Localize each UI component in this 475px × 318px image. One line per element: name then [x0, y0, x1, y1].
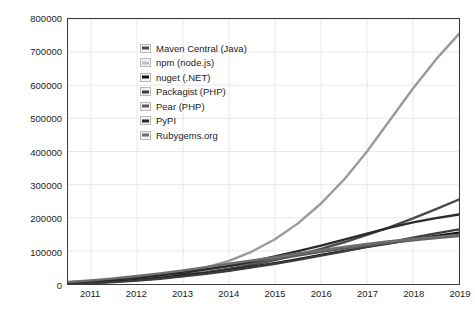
legend-color-swatch-icon: [140, 73, 151, 82]
legend-item[interactable]: Packagist (PHP): [140, 86, 247, 98]
y-axis-tick-label: 300000: [0, 179, 62, 190]
legend-color-swatch-icon: [140, 87, 151, 96]
legend-item-label: Pear (PHP): [156, 101, 205, 112]
legend-item-label: PyPI: [156, 115, 176, 126]
y-axis-tick-label: 100000: [0, 246, 62, 257]
legend-item[interactable]: Rubygems.org: [140, 129, 247, 141]
y-axis-tick-label: 500000: [0, 113, 62, 124]
legend: Maven Central (Java)npm (node.js)nuget (…: [140, 40, 247, 141]
legend-color-swatch-icon: [140, 102, 151, 111]
legend-item[interactable]: PyPI: [140, 115, 247, 127]
y-axis-tick-label: 0: [0, 280, 62, 291]
line-chart: 0100000200000300000400000500000600000700…: [0, 0, 475, 318]
legend-color-swatch-icon: [140, 116, 151, 125]
legend-color-swatch-icon: [140, 44, 151, 53]
legend-item-label: npm (node.js): [156, 57, 214, 68]
legend-item-label: Rubygems.org: [156, 130, 218, 141]
series-line: [68, 34, 459, 283]
legend-item[interactable]: Maven Central (Java): [140, 42, 247, 54]
legend-color-swatch-icon: [140, 58, 151, 67]
legend-item-label: nuget (.NET): [156, 72, 210, 83]
legend-item-label: Packagist (PHP): [156, 86, 226, 97]
y-axis-tick-label: 800000: [0, 13, 62, 24]
y-axis-tick-label: 700000: [0, 46, 62, 57]
legend-item[interactable]: nuget (.NET): [140, 71, 247, 83]
y-axis-tick-label: 200000: [0, 213, 62, 224]
legend-item-label: Maven Central (Java): [156, 43, 247, 54]
y-axis-tick-label: 600000: [0, 79, 62, 90]
series-line: [68, 214, 459, 282]
series-lines: [68, 19, 459, 284]
legend-color-swatch-icon: [140, 131, 151, 140]
legend-item[interactable]: Pear (PHP): [140, 100, 247, 112]
y-axis-tick-label: 400000: [0, 146, 62, 157]
plot-area: Maven Central (Java)npm (node.js)nuget (…: [67, 18, 460, 285]
series-line: [68, 229, 459, 283]
legend-item[interactable]: npm (node.js): [140, 57, 247, 69]
x-axis-tick-label: 2019: [430, 288, 475, 299]
